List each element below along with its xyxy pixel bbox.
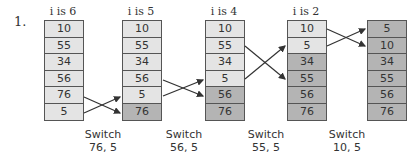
switch-label: Switch	[73, 128, 133, 141]
switch-values: 56, 5	[154, 141, 214, 154]
switch-values: 10, 5	[317, 141, 377, 154]
switch-caption-4: Switch10, 5	[317, 128, 377, 154]
switch-caption-1: Switch76, 5	[73, 128, 133, 154]
switch-caption-2: Switch56, 5	[154, 128, 214, 154]
switch-label: Switch	[236, 128, 296, 141]
switch-label: Switch	[317, 128, 377, 141]
switch-label: Switch	[154, 128, 214, 141]
switch-values: 76, 5	[73, 141, 133, 154]
switch-values: 55, 5	[236, 141, 296, 154]
switch-caption-3: Switch55, 5	[236, 128, 296, 154]
